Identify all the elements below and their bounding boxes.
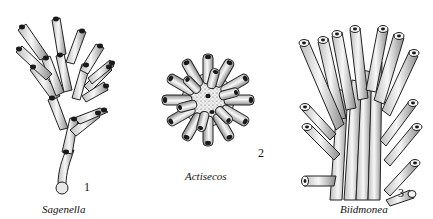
figure-1-sagenella-drawing (16, 17, 115, 194)
figure-number-2: 2 (258, 146, 264, 161)
caption-actisecos: Actisecos (185, 170, 227, 182)
figure-2-actisecos-drawing (162, 54, 254, 146)
caption-biidmonea: Biidmonea (340, 203, 388, 215)
illustration-canvas (0, 0, 433, 219)
caption-sagenella: Sagenella (42, 203, 85, 215)
figure-number-1: 1 (84, 180, 90, 195)
figure-3-biidmonea-drawing (299, 26, 422, 207)
figure-number-3: 3 (398, 186, 404, 201)
